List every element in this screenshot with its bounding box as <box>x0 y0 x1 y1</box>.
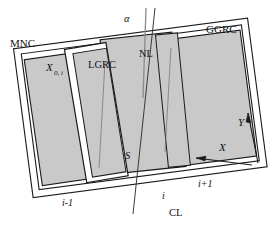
label-station-prev: i-1 <box>62 197 73 208</box>
label-ggrc: GGRC <box>206 23 237 35</box>
label-x0i-subscript: 0, i <box>54 69 63 77</box>
label-cl: CL <box>169 207 182 218</box>
label-alpha: α <box>124 13 130 24</box>
label-lgrc: LGRC <box>88 59 116 70</box>
label-mnc: MNC <box>10 37 35 49</box>
label-nl: NL <box>139 48 153 59</box>
label-s: S <box>125 150 131 161</box>
diagram-canvas: MNC GGRC LGRC NL S X 0, i α X Y CL i-1 i… <box>0 0 279 226</box>
label-axis-x: X <box>218 141 227 153</box>
schematic-drawing: MNC GGRC LGRC NL S X 0, i α X Y CL i-1 i… <box>0 0 279 226</box>
label-station-next: i+1 <box>198 178 213 189</box>
label-x0i-base: X <box>45 61 54 73</box>
label-station-curr: i <box>162 190 165 201</box>
